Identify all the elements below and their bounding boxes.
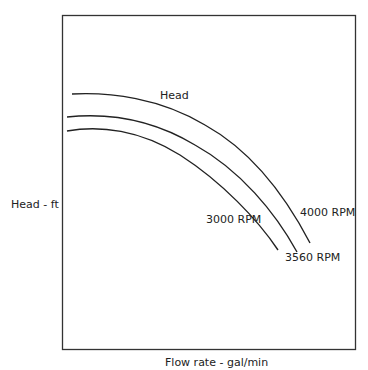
- plot-frame: [63, 16, 356, 350]
- label-4000-rpm: 4000 RPM: [300, 206, 355, 219]
- annotation-head: Head: [160, 89, 189, 102]
- x-axis-label: Flow rate - gal/min: [165, 356, 268, 369]
- label-3560-rpm: 3560 RPM: [285, 251, 340, 264]
- curve-3560-rpm: [67, 116, 297, 252]
- pump-curve-chart: Head 4000 RPM 3000 RPM 3560 RPM Head - f…: [0, 0, 368, 370]
- y-axis-label: Head - ft: [11, 198, 59, 211]
- label-3000-rpm: 3000 RPM: [206, 213, 261, 226]
- curve-3000-rpm: [67, 129, 278, 250]
